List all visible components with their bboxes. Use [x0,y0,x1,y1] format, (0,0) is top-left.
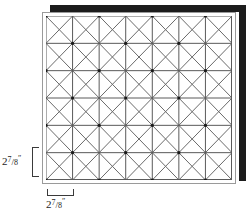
grid-node [204,124,207,127]
grid-node [71,151,74,154]
grid-node [177,96,180,99]
grid-node [124,96,127,99]
grid-node [98,69,101,72]
dimension-horizontal-fraction: 7/8 [52,200,63,210]
grid-node [177,42,180,45]
dimension-vertical-fraction: 7/8 [8,157,19,167]
dimension-vertical-unit: ″ [18,154,21,163]
dimension-label-horizontal: 27/8″ [46,199,65,211]
panel-shadow-right [239,5,246,181]
grid-node [98,124,101,127]
grid-node [71,42,74,45]
dimension-vertical-numerator: 7 [8,155,12,164]
grid-node [71,96,74,99]
dimension-horizontal-numerator: 7 [52,198,56,207]
panel-shadow-top [50,5,246,12]
grid-node [151,69,154,72]
grid-node [177,151,180,154]
quilt-grid [46,16,232,180]
dimension-label-vertical: 27/8″ [2,156,21,168]
diagram-stage: 27/8″ 27/8″ [0,0,252,217]
dimension-horizontal-unit: ″ [62,197,65,206]
grid-node [151,124,154,127]
grid-node [124,151,127,154]
grid-node [124,42,127,45]
grid-node [204,69,207,72]
dimension-bracket-horizontal [47,189,74,196]
dimension-bracket-vertical [32,147,39,177]
